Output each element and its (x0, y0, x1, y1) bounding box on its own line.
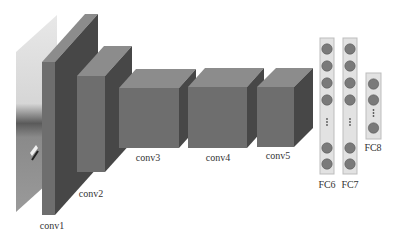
neuron-icon (345, 78, 355, 88)
neuron-icon (368, 123, 378, 133)
neuron-icon (322, 61, 332, 71)
fc-layers: FC6FC7FC8 (318, 38, 381, 190)
fc8-label: FC8 (364, 142, 381, 153)
fc7-label: FC7 (341, 179, 358, 190)
fc6-bar (320, 38, 334, 174)
conv1-front-face (42, 62, 55, 215)
neuron-icon (322, 143, 332, 153)
ellipsis-dot-icon (373, 115, 375, 117)
conv4-label: conv4 (206, 152, 230, 163)
ellipsis-dot-icon (326, 118, 328, 120)
conv4-front-face (188, 87, 247, 148)
neuron-icon (322, 95, 332, 105)
layer-conv3: conv3 (119, 69, 196, 163)
neuron-icon (322, 78, 332, 88)
layer-conv5: conv5 (257, 68, 313, 161)
neuron-icon (345, 159, 355, 169)
neuron-icon (345, 95, 355, 105)
ellipsis-dot-icon (349, 124, 351, 126)
conv1-label: conv1 (40, 220, 64, 231)
ellipsis-dot-icon (326, 121, 328, 123)
ellipsis-dot-icon (349, 121, 351, 123)
layer-fc6: FC6 (318, 38, 335, 190)
fc6-label: FC6 (318, 179, 335, 190)
conv2-label: conv2 (79, 188, 103, 199)
conv3-label: conv3 (136, 152, 160, 163)
neuron-icon (322, 44, 332, 54)
conv3-front-face (119, 88, 179, 148)
layer-conv4: conv4 (188, 68, 264, 163)
neuron-icon (345, 44, 355, 54)
conv5-label: conv5 (266, 150, 290, 161)
neuron-icon (345, 143, 355, 153)
neuron-icon (345, 61, 355, 71)
neuron-icon (322, 159, 332, 169)
conv5-front-face (257, 87, 294, 147)
conv2-front-face (77, 76, 105, 172)
cnn-architecture-diagram: conv1conv2conv3conv4conv5 FC6FC7FC8 (0, 0, 396, 237)
ellipsis-dot-icon (373, 112, 375, 114)
neuron-icon (368, 95, 378, 105)
neuron-icon (368, 79, 378, 89)
layer-fc7: FC7 (341, 38, 358, 190)
layer-fc8: FC8 (364, 73, 381, 153)
fc7-bar (343, 38, 357, 174)
conv-layers: conv1conv2conv3conv4conv5 (40, 14, 313, 231)
ellipsis-dot-icon (349, 118, 351, 120)
ellipsis-dot-icon (373, 109, 375, 111)
ellipsis-dot-icon (326, 124, 328, 126)
